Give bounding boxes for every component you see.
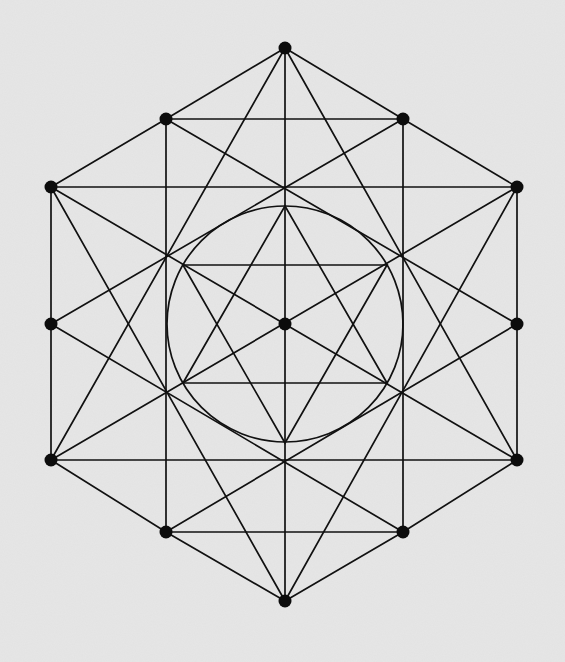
sacred-geometry-diagram [0,0,565,662]
vertex-middle-right [511,318,524,331]
paper-background [0,0,565,662]
vertex-lower-right [397,526,410,539]
vertex-middle-left [45,318,58,331]
vertex-outer-lower-left [45,454,58,467]
vertex-outer-lower-right [511,454,524,467]
vertex-center [279,318,292,331]
vertex-bottom [279,595,292,608]
vertex-outer-upper-right [511,181,524,194]
vertex-outer-upper-left [45,181,58,194]
vertex-lower-left [160,526,173,539]
vertex-upper-right [397,113,410,126]
vertex-upper-left [160,113,173,126]
diagram-svg [0,0,565,662]
vertex-top [279,42,292,55]
